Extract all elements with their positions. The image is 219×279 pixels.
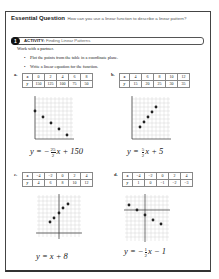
problem-b-table: x4681012 y1520253035 [119, 73, 190, 88]
cell: −4 [33, 173, 45, 180]
cell: −2 [169, 180, 181, 187]
cell: −4 [133, 173, 145, 180]
problem-d-table: x−4−2024 y10−1−2−3 [122, 172, 193, 187]
problem-b-equation: y = 52x + 5 [127, 146, 163, 158]
cell: 8 [57, 180, 69, 187]
cell: 4 [33, 180, 45, 187]
x-header: x [23, 173, 33, 180]
cell: −3 [181, 180, 193, 187]
cell: 12 [178, 74, 190, 81]
essential-question-text: How can you use a linear function to des… [67, 16, 186, 21]
cell: 0 [57, 173, 69, 180]
cell: 2 [45, 74, 57, 81]
problem-a-graph [30, 95, 75, 145]
problem-b-label: b. [111, 72, 115, 77]
problem-a-label: a. [14, 72, 17, 77]
cell: 2 [69, 173, 81, 180]
problem-c-graph [35, 193, 83, 243]
cell: 8 [81, 74, 93, 81]
cell: 30 [166, 81, 178, 88]
cell: −1 [157, 180, 169, 187]
y-header: y [120, 81, 130, 88]
cell: 6 [69, 74, 81, 81]
cell: 4 [181, 173, 193, 180]
problem-a-equation: y = −252x + 150 [30, 146, 83, 158]
cell: 100 [57, 81, 69, 88]
cell: 125 [45, 81, 57, 88]
cell: 10 [69, 180, 81, 187]
cell: −2 [45, 173, 57, 180]
x-header: x [23, 74, 33, 81]
essential-question-title: Essential Question [11, 15, 65, 21]
instruction-bullet: Plot the points from the table in a coor… [30, 55, 118, 60]
cell: 10 [166, 74, 178, 81]
cell: 25 [154, 81, 166, 88]
cell: 0 [33, 74, 45, 81]
cell: 1 [133, 180, 145, 187]
cell: 15 [130, 81, 142, 88]
cell: 150 [33, 81, 45, 88]
instructions-intro: Work with a partner. [17, 46, 54, 51]
cell: 8 [154, 74, 166, 81]
x-header: x [120, 74, 130, 81]
cell: 0 [145, 180, 157, 187]
cell: 6 [142, 74, 154, 81]
activity-number: 1 [11, 37, 20, 45]
cell: 4 [81, 173, 93, 180]
cell: 35 [178, 81, 190, 88]
cell: −2 [145, 173, 157, 180]
problem-c-equation: y = x + 8 [36, 251, 68, 261]
problem-d-graph [123, 193, 171, 243]
problem-c-table: x−4−2024 y4681012 [22, 172, 93, 187]
cell: 12 [81, 180, 93, 187]
cell: 50 [81, 81, 93, 88]
essential-question: Essential Question How can you use a lin… [11, 15, 201, 22]
activity-title: Finding Linear Patterns [46, 38, 90, 43]
problem-d-label: d. [114, 172, 118, 177]
cell: 0 [157, 173, 169, 180]
cell: 6 [45, 180, 57, 187]
problem-d-equation: y = −12x − 1 [124, 246, 166, 258]
cell: 4 [130, 74, 142, 81]
x-header: x [123, 173, 133, 180]
problem-b-graph [127, 95, 172, 145]
instruction-bullet: Write a linear equation for the function… [30, 64, 98, 69]
y-header: y [123, 180, 133, 187]
problem-a-table: x02468 y1501251007550 [22, 73, 93, 88]
y-header: y [23, 81, 33, 88]
y-header: y [23, 180, 33, 187]
activity-label: ACTIVITY: [24, 38, 45, 43]
cell: 4 [57, 74, 69, 81]
activity-banner: 1 ACTIVITY: Finding Linear Patterns [11, 37, 204, 45]
cell: 75 [69, 81, 81, 88]
cell: 2 [169, 173, 181, 180]
problem-c-label: c. [14, 172, 17, 177]
cell: 20 [142, 81, 154, 88]
